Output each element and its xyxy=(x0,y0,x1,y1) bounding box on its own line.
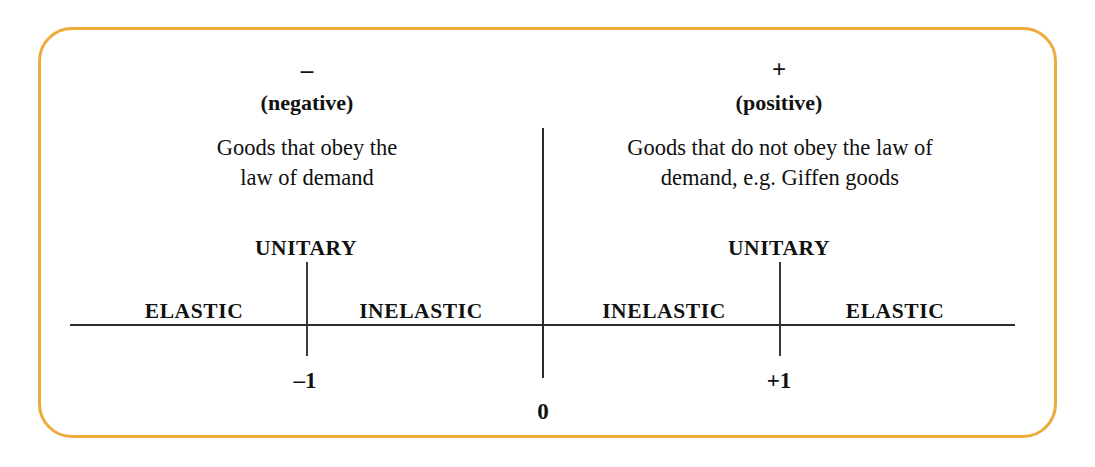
diagram-canvas: – (negative) Goods that obey the law of … xyxy=(0,0,1095,467)
positive-inelastic-label: INELASTIC xyxy=(602,299,726,324)
positive-description-line-2: demand, e.g. Giffen goods xyxy=(572,163,988,193)
negative-description-line-2: law of demand xyxy=(137,163,477,193)
negative-sign-glyph: – xyxy=(301,55,314,85)
negative-description-line-1: Goods that obey the xyxy=(137,133,477,163)
positive-sign-glyph: + xyxy=(772,55,786,85)
orange-rounded-frame xyxy=(38,27,1057,438)
negative-unitary-label: UNITARY xyxy=(255,236,357,261)
number-line-axis xyxy=(70,324,1015,326)
negative-elastic-label: ELASTIC xyxy=(145,299,244,324)
tick-label-zero: 0 xyxy=(537,398,549,425)
positive-unitary-label: UNITARY xyxy=(728,236,830,261)
positive-description-line-1: Goods that do not obey the law of xyxy=(572,133,988,163)
tick-label-minus-one: –1 xyxy=(294,367,317,394)
tick-label-plus-one: +1 xyxy=(767,367,792,394)
negative-polarity-label: (negative) xyxy=(261,90,354,116)
tick-mark-minus-one xyxy=(306,262,308,356)
negative-inelastic-label: INELASTIC xyxy=(359,299,483,324)
origin-divider-line xyxy=(542,128,544,378)
negative-description: Goods that obey the law of demand xyxy=(137,133,477,193)
positive-description: Goods that do not obey the law of demand… xyxy=(572,133,988,193)
positive-polarity-label: (positive) xyxy=(736,90,823,116)
positive-elastic-label: ELASTIC xyxy=(846,299,945,324)
tick-mark-plus-one xyxy=(779,262,781,356)
